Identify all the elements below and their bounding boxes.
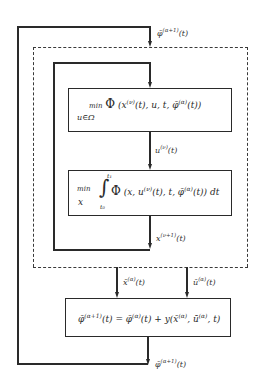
dashed-border-top [33, 47, 248, 48]
label-x-bar: x̄(α)(t) [123, 276, 145, 287]
inner-loop-entry [149, 62, 151, 82]
box3-formula: φ̄(α+1)(t) = φ̄(α)(t) + y(x̄(α), ū(α), t… [78, 312, 220, 324]
integral-upper: t₁ [107, 172, 112, 179]
outer-loop-entry [149, 26, 151, 42]
label-u: u(ν)(t) [155, 144, 177, 155]
box1-formula: min Φ (x(ν)(t), u, t, φ̄(α)(t)) [89, 97, 201, 111]
outer-loop-top [18, 26, 150, 28]
inner-loop-left [53, 62, 55, 250]
arrow-x-return [148, 243, 152, 249]
outer-loop-bottom [17, 363, 148, 365]
label-output-phi: φ̄(α+1)(t) [155, 358, 186, 369]
arrow-output [146, 359, 150, 365]
dashed-border-left [33, 47, 34, 267]
box-minimize-hamiltonian: min Φ (x(ν)(t), u, t, φ̄(α)(t)) u∈Ω [68, 88, 232, 132]
inner-loop-top [53, 62, 150, 64]
box-update-costate: φ̄(α+1)(t) = φ̄(α)(t) + y(x̄(α), ū(α), t… [65, 298, 231, 337]
box2-op: min [77, 185, 90, 193]
connector-u-bar [186, 267, 188, 292]
box1-constraint: u∈Ω [77, 113, 95, 122]
dashed-border-right [247, 47, 248, 267]
box2-formula: Φ (x, u(ν)(t), t, φ̄(α)(t)) dt [111, 184, 219, 198]
dashed-border-bottom [33, 267, 248, 268]
integral-lower: t₀ [100, 203, 105, 210]
label-input-phi: φ̄(α+1)(t) [157, 27, 188, 38]
outer-loop-left [17, 26, 19, 364]
label-u-bar: ū(α)(t) [193, 276, 216, 287]
connector-x [149, 216, 151, 243]
inner-loop-bottom [53, 249, 150, 251]
connector-u [149, 132, 151, 164]
connector-x-bar [116, 267, 118, 292]
box-minimize-integral: min x ∫ t₁ t₀ Φ (x, u(ν)(t), t, φ̄(α)(t)… [68, 170, 232, 216]
integral-sign: ∫ [99, 177, 109, 197]
box2-sub: x [78, 197, 83, 207]
label-x: x(ν+1)(t) [156, 232, 186, 243]
